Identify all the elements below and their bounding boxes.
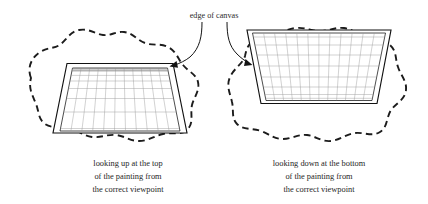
left-caption-line-3: the correct viewpoint — [92, 185, 164, 194]
left-caption: looking up at the top of the painting fr… — [92, 159, 164, 194]
edge-of-canvas-label: edge of canvas — [190, 11, 239, 20]
leader-arrow-left — [170, 22, 203, 68]
left-panel: looking up at the top of the painting fr… — [29, 30, 198, 194]
right-caption-line-3: the correct viewpoint — [283, 185, 355, 194]
left-painting — [51, 64, 189, 134]
left-caption-line-1: looking up at the top — [93, 159, 162, 168]
right-painting — [247, 30, 391, 104]
right-caption: looking down at the bottom of the painti… — [273, 159, 366, 194]
left-caption-line-2: of the painting from — [94, 172, 162, 181]
right-panel: looking down at the bottom of the painti… — [228, 28, 406, 194]
perspective-diagram: looking up at the top of the painting fr… — [0, 0, 428, 204]
right-caption-line-2: of the painting from — [285, 172, 353, 181]
diagram-canvas: looking up at the top of the painting fr… — [0, 0, 428, 204]
edge-of-canvas-annotation: edge of canvas — [170, 11, 253, 68]
right-caption-line-1: looking down at the bottom — [273, 159, 366, 168]
